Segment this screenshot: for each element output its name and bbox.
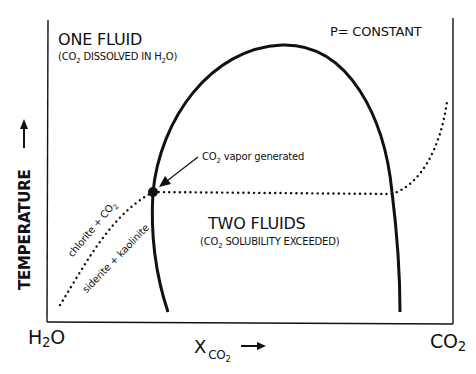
x-axis-left-end-label: H2O <box>28 326 65 348</box>
vapor-generation-point <box>148 187 158 197</box>
solvus-curve <box>152 45 400 312</box>
vapor-generated-annotation: CO2 vapor generated <box>202 151 304 162</box>
one-fluid-title: ONE FLUID <box>58 30 142 49</box>
annotation-arrow-line <box>163 157 198 184</box>
x-axis-right-end-label: CO2 <box>430 330 466 352</box>
two-fluids-title: TWO FLUIDS <box>208 214 306 233</box>
pressure-condition-label: P= CONSTANT <box>330 24 421 39</box>
x-axis-line <box>47 322 453 324</box>
y-axis-line <box>47 20 48 322</box>
x-axis-label: XCO2 <box>194 336 231 357</box>
x-axis-arrowhead <box>257 342 266 350</box>
y-axis-label: TEMPERATURE <box>16 169 34 290</box>
annotation-arrowhead <box>159 176 171 187</box>
one-fluid-subtitle: (CO2 DISSOLVED IN H2O) <box>58 51 177 62</box>
two-fluids-subtitle: (CO2 SOLUBILITY EXCEEDED) <box>200 236 339 247</box>
reaction-curve-dotted <box>60 102 447 305</box>
y-axis-arrowhead <box>20 119 28 129</box>
